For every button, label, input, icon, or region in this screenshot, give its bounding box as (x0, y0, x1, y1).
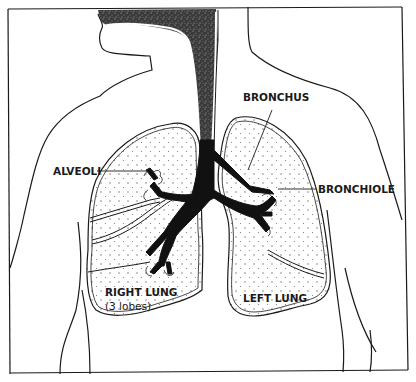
label-bronchus: BRONCHUS (243, 90, 309, 104)
label-right-lung: RIGHT LUNG (105, 285, 177, 299)
left-lung (218, 117, 330, 316)
label-right-lung-note: (3 lobes) (105, 299, 151, 313)
label-left-lung: LEFT LUNG (243, 291, 307, 305)
label-alveoli: ALVEOLI (53, 164, 101, 178)
label-bronchiole: BRONCHIOLE (318, 182, 395, 196)
